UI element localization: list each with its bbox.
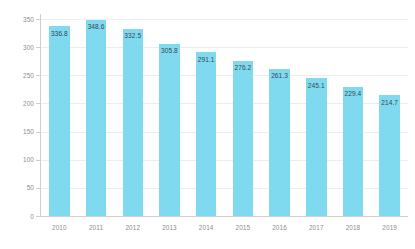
bar[interactable]	[49, 26, 70, 216]
bar[interactable]	[196, 52, 217, 216]
bar[interactable]	[343, 87, 364, 216]
bar-value-label: 336.8	[46, 30, 73, 38]
bar[interactable]	[159, 44, 180, 216]
bar-value-label: 291.1	[193, 56, 220, 64]
y-tick-label-wrapper: 200	[0, 100, 34, 107]
y-axis-title: Average selling price in U.S. dollars	[1, 0, 15, 14]
y-tick-label-wrapper: 50	[0, 184, 34, 191]
bar-value-label: 332.5	[120, 32, 147, 40]
y-tick-label-wrapper: 0	[0, 213, 34, 220]
y-tick-label: 100	[4, 156, 34, 163]
bar-chart: Average selling price in U.S. dollars 05…	[0, 0, 415, 249]
y-tick-label: 350	[4, 16, 34, 23]
bar-value-label: 214.7	[376, 99, 403, 107]
bar-value-label: 245.1	[303, 82, 330, 90]
plot-area	[41, 19, 408, 216]
bar[interactable]	[233, 61, 254, 216]
bar[interactable]	[306, 78, 327, 216]
bar-value-label: 229.4	[340, 90, 367, 98]
y-tick-label-wrapper: 300	[0, 44, 34, 51]
y-tick-label: 150	[4, 128, 34, 135]
bar-value-label: 261.3	[266, 72, 293, 80]
bar[interactable]	[86, 20, 107, 216]
y-tick-label: 300	[4, 44, 34, 51]
y-tick-label: 200	[4, 100, 34, 107]
y-tick-label-wrapper: 100	[0, 156, 34, 163]
y-tick-mark	[36, 216, 41, 217]
y-tick-label: 250	[4, 72, 34, 79]
y-tick-label-wrapper: 350	[0, 16, 34, 23]
bar-value-label: 305.8	[156, 47, 183, 55]
y-tick-label-wrapper: 150	[0, 128, 34, 135]
bar[interactable]	[269, 69, 290, 216]
y-tick-label-wrapper: 250	[0, 72, 34, 79]
bar[interactable]	[379, 95, 400, 216]
x-tick-label: 2019	[368, 224, 411, 232]
y-tick-label: 50	[4, 184, 34, 191]
x-axis-line	[36, 216, 408, 217]
bar-value-label: 276.2	[230, 64, 257, 72]
bar-value-label: 348.6	[83, 23, 110, 31]
y-tick-label: 0	[4, 213, 34, 220]
bar[interactable]	[123, 29, 144, 216]
